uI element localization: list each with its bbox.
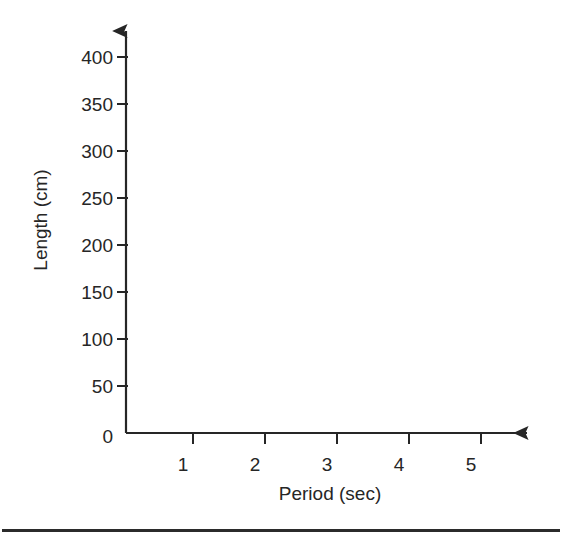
x-tick-label-2: 2 — [215, 455, 275, 474]
x-tick-label-3: 3 — [287, 455, 347, 474]
x-axis-ticks — [193, 433, 481, 444]
y-tick-label-350: 350 — [53, 95, 113, 114]
y-tick-label-150: 150 — [53, 283, 113, 302]
figure-container: 400 350 300 250 200 150 100 50 0 1 2 3 4… — [0, 0, 566, 548]
y-tick-label-0: 0 — [53, 427, 113, 446]
y-tick-label-400: 400 — [53, 48, 113, 67]
y-tick-label-200: 200 — [53, 236, 113, 255]
y-axis-title: Length (cm) — [31, 169, 50, 270]
x-tick-label-5: 5 — [431, 455, 491, 474]
x-axis-title: Period (sec) — [279, 484, 381, 503]
x-tick-label-1: 1 — [143, 455, 203, 474]
y-tick-label-50: 50 — [53, 377, 113, 396]
y-tick-label-250: 250 — [53, 189, 113, 208]
x-tick-label-4: 4 — [359, 455, 419, 474]
bottom-divider-rule — [2, 529, 560, 532]
y-tick-label-300: 300 — [53, 142, 113, 161]
y-tick-label-100: 100 — [53, 330, 113, 349]
